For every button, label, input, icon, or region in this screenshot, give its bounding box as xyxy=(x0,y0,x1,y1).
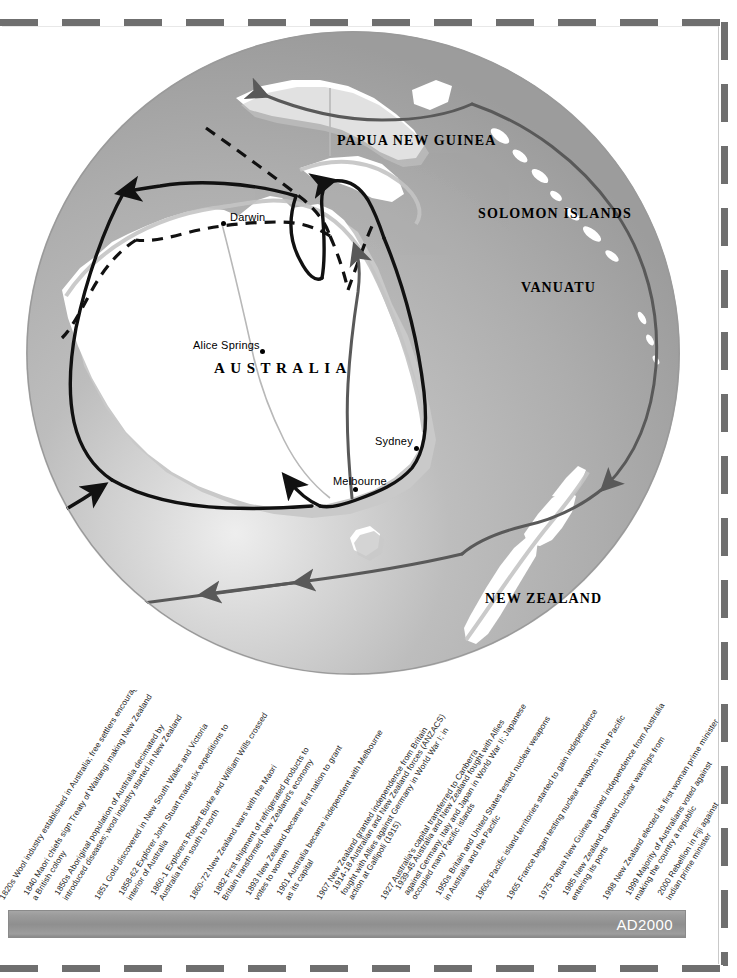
globe-map: PAPUA NEW GUINEA SOLOMON ISLANDS VANUATU… xyxy=(0,28,706,688)
city-marker-sydney xyxy=(414,446,419,451)
timeline-bar: AD2000 xyxy=(8,910,686,938)
city-marker-darwin xyxy=(221,221,226,226)
city-marker-melbourne xyxy=(353,487,358,492)
page-root: PAPUA NEW GUINEA SOLOMON ISLANDS VANUATU… xyxy=(0,0,737,978)
page-frame-bottom-border xyxy=(0,965,723,972)
city-marker-alice-springs xyxy=(260,349,265,354)
timeline: 1820s Wool industry established in Austr… xyxy=(0,690,737,960)
timeline-entry-line: 1965 France began testing nuclear weapon… xyxy=(505,714,628,902)
timeline-end-label: AD2000 xyxy=(616,916,673,933)
globe-illustration xyxy=(0,28,706,688)
timeline-entry-1965: 1965 France began testing nuclear weapon… xyxy=(505,714,628,902)
page-frame-top-border xyxy=(0,19,723,26)
